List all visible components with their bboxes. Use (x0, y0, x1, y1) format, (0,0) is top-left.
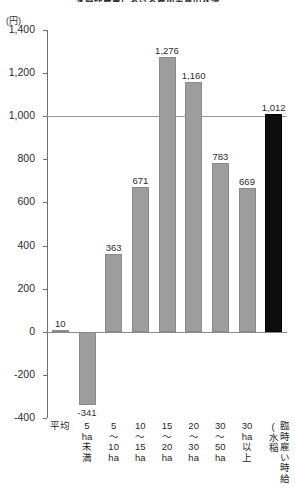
x-axis-labels: 平均5ha未満5〜10ha10〜15ha15〜20ha20〜30ha30〜50h… (47, 421, 287, 502)
bar-value-label: 671 (118, 175, 162, 186)
x-label-line: 30 (229, 421, 265, 432)
x-label-line: 以 (229, 442, 265, 453)
y-axis-tick-label: 0 (0, 325, 35, 337)
y-axis-tick (43, 418, 47, 419)
bar (265, 114, 282, 332)
y-axis-tick-label: -400 (0, 411, 35, 423)
y-axis-tick (43, 246, 47, 247)
y-axis-tick-label: 1,200 (0, 66, 35, 78)
y-axis-tick-label: -200 (0, 368, 35, 380)
y-axis-tick-label: 600 (0, 195, 35, 207)
y-axis-line (47, 30, 48, 418)
bar-value-label: 1,012 (252, 102, 295, 113)
bar-value-label: 1,160 (172, 70, 216, 81)
bar-value-label: 669 (225, 176, 269, 187)
y-axis-tick (43, 202, 47, 203)
y-axis-tick (43, 289, 47, 290)
bar (105, 254, 122, 332)
x-axis-category-label: 臨時雇い時給(水稲 (268, 421, 290, 501)
bar-value-label: 10 (38, 318, 82, 329)
y-axis-tick-label: 1,000 (0, 109, 35, 121)
y-axis-tick (43, 30, 47, 31)
bar (239, 188, 256, 332)
bar (79, 332, 96, 406)
y-axis-tick-label: 200 (0, 282, 35, 294)
y-axis-tick (43, 73, 47, 74)
y-axis-tick-label: 400 (0, 239, 35, 251)
bar (132, 187, 149, 332)
bar-value-label: 783 (198, 151, 242, 162)
y-axis-tick (43, 375, 47, 376)
x-axis-category-label: 30ha以上 (229, 421, 265, 463)
bar-value-label: 1,276 (145, 45, 189, 56)
y-axis-tick (43, 159, 47, 160)
chart-container: 水稲作農業における雇用労賃の状況 (円) 1,4001,2001,0008006… (0, 0, 295, 502)
bar-value-label: -341 (65, 407, 109, 418)
plot-area: 1,4001,2001,0008006004002000-200-40010-3… (47, 30, 287, 418)
y-axis-tick-label: 1,400 (0, 23, 35, 35)
x-label-line: 上 (229, 453, 265, 464)
bar (212, 163, 229, 332)
chart-title: 水稲作農業における雇用労賃の状況 (0, 0, 295, 2)
bar (52, 330, 69, 332)
bar (185, 82, 202, 332)
bar (159, 57, 176, 332)
y-axis-tick-label: 800 (0, 152, 35, 164)
bar-value-label: 363 (92, 242, 136, 253)
